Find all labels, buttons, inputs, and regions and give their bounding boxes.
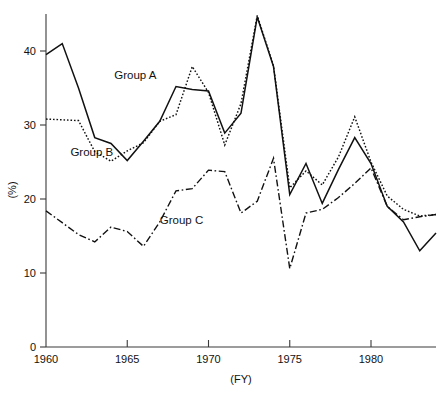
line-chart: 010203040 19601965197019751980 Group AGr… [0, 0, 442, 404]
y-axis-ticks: 010203040 [24, 45, 46, 353]
x-axis-ticks: 19601965197019751980 [34, 340, 383, 365]
chart-series-group [46, 15, 436, 268]
series-line-group-c [46, 158, 436, 268]
x-tick-label: 1975 [278, 353, 302, 365]
x-tick-label: 1965 [115, 353, 139, 365]
series-annotations: Group AGroup BGroup C [70, 69, 203, 226]
x-tick-label: 1960 [34, 353, 58, 365]
chart-container: 010203040 19601965197019751980 Group AGr… [0, 0, 442, 404]
series-label-group-b: Group B [70, 146, 113, 158]
y-tick-label: 10 [24, 267, 36, 279]
series-line-group-b [46, 15, 436, 216]
y-axis-title: (%) [6, 181, 18, 198]
series-line-group-a [46, 17, 436, 251]
y-tick-label: 20 [24, 193, 36, 205]
x-tick-label: 1970 [196, 353, 220, 365]
y-tick-label: 40 [24, 45, 36, 57]
y-tick-label: 0 [30, 341, 36, 353]
series-label-group-c: Group C [160, 214, 203, 226]
x-axis-title: (FY) [230, 373, 251, 385]
y-tick-label: 30 [24, 119, 36, 131]
series-label-group-a: Group A [114, 69, 157, 81]
x-tick-label: 1980 [359, 353, 383, 365]
